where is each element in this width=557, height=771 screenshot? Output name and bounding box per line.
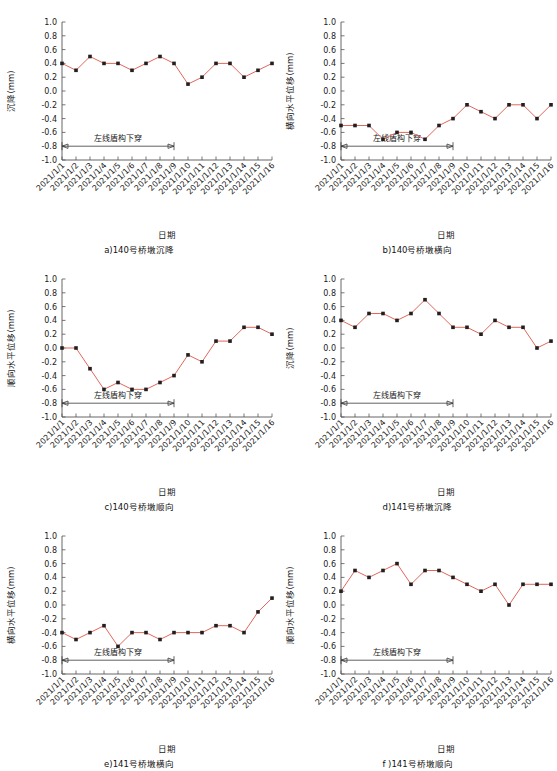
data-point [242,631,246,635]
y-axis-label: 横向水平位移(mm) [6,566,16,643]
data-point [186,353,190,357]
y-tick-label: 0.2 [323,587,336,596]
data-point [465,326,469,330]
y-tick-label: -0.6 [41,642,57,651]
data-point [116,645,120,649]
data-point [256,326,260,330]
series-markers [339,298,553,350]
y-tick-label: 0.0 [44,87,57,96]
series-markers [60,55,274,86]
y-tick-label: -0.2 [41,615,57,624]
data-point [172,62,176,66]
data-point [535,583,539,587]
data-point [339,319,343,323]
y-tick-label: -0.6 [320,642,336,651]
annotation-label: 左线盾构下穿 [94,390,142,400]
data-point [144,62,148,66]
y-tick-label: 0.4 [44,316,57,325]
data-point [214,339,218,343]
data-point [451,576,455,580]
series-line [62,598,272,646]
y-tick-label: -0.4 [320,372,336,381]
y-tick-label: 0.4 [44,59,57,68]
chart-svg: 1.00.80.60.40.20.0-0.2-0.4-0.6-0.8-1.0沉降… [279,257,557,514]
data-point [158,55,162,59]
y-tick-label: -1.0 [41,670,57,679]
y-tick-label: 1.0 [323,275,336,284]
data-point [130,69,134,73]
y-tick-label: -0.4 [320,629,336,638]
y-tick-label: -0.8 [320,142,336,151]
chart-svg: 1.00.80.60.40.20.0-0.2-0.4-0.6-0.8-1.0横向… [279,0,557,257]
data-point [409,312,413,316]
series-line [62,57,272,85]
data-point [60,62,64,66]
data-point [200,631,204,635]
y-tick-label: 0.8 [44,289,57,298]
y-tick-label: 0.6 [323,303,336,312]
data-point [270,332,274,336]
data-point [535,346,539,350]
x-axis-label: 日期 [158,487,176,497]
y-tick-label: -1.0 [41,156,57,165]
annotation-span: 左线盾构下穿 [341,133,453,150]
y-tick-label: 0.6 [323,46,336,55]
y-tick-label: 0.2 [44,73,57,82]
y-axis-label: 顺向水平位移(mm) [285,566,295,643]
y-tick-label: -0.4 [320,115,336,124]
axes: 1.00.80.60.40.20.0-0.2-0.4-0.6-0.8-1.0 [41,18,272,165]
y-tick-label: -0.6 [41,385,57,394]
figure-grid: 1.00.80.60.40.20.0-0.2-0.4-0.6-0.8-1.0沉降… [0,0,557,771]
series-markers [60,596,274,648]
data-point [200,75,204,79]
annotation-span: 左线盾构下穿 [62,133,174,150]
data-point [339,124,343,128]
y-tick-label: 0.8 [44,546,57,555]
chart-svg: 1.00.80.60.40.20.0-0.2-0.4-0.6-0.8-1.0横向… [0,514,278,771]
annotation-span: 左线盾构下穿 [62,647,174,664]
y-tick-label: 0.2 [44,587,57,596]
y-tick-label: -0.4 [41,629,57,638]
x-axis-label: 日期 [437,487,455,497]
data-point [144,631,148,635]
data-point [507,603,511,607]
data-point [521,326,525,330]
data-point [172,374,176,378]
y-tick-label: -1.0 [320,670,336,679]
chart-svg: 1.00.80.60.40.20.0-0.2-0.4-0.6-0.8-1.0沉降… [0,0,278,257]
x-tick-labels: 2021/1/12021/1/22021/1/32021/1/42021/1/5… [313,675,555,710]
data-point [228,624,232,628]
y-tick-label: -0.8 [320,399,336,408]
y-tick-label: 1.0 [323,532,336,541]
data-point [381,569,385,573]
y-tick-label: 0.0 [323,344,336,353]
x-axis-label: 日期 [437,230,455,240]
data-point [256,69,260,73]
data-point [535,117,539,121]
data-point [437,569,441,573]
chart-caption: a)140号桥墩沉降 [0,243,278,255]
annotation-span: 左线盾构下穿 [62,390,174,407]
y-tick-label: 0.4 [323,59,336,68]
data-point [102,624,106,628]
data-point [200,360,204,364]
data-point [549,583,553,587]
data-point [465,583,469,587]
y-axis-label: 横向水平位移(mm) [285,52,295,129]
data-point [367,576,371,580]
data-point [74,69,78,73]
annotation-label: 左线盾构下穿 [94,647,142,657]
x-tick-labels: 2021/1/12021/1/22021/1/32021/1/42021/1/5… [313,161,555,196]
data-point [228,62,232,66]
x-axis-label: 日期 [158,230,176,240]
chart-svg: 1.00.80.60.40.20.0-0.2-0.4-0.6-0.8-1.0顺向… [0,257,278,514]
data-point [270,62,274,66]
data-point [437,124,441,128]
data-point [395,131,399,135]
data-point [102,388,106,392]
y-tick-label: -0.6 [41,128,57,137]
y-tick-label: -0.8 [320,656,336,665]
y-tick-label: 0.6 [44,46,57,55]
series-markers [60,326,274,392]
y-tick-label: 0.0 [323,87,336,96]
